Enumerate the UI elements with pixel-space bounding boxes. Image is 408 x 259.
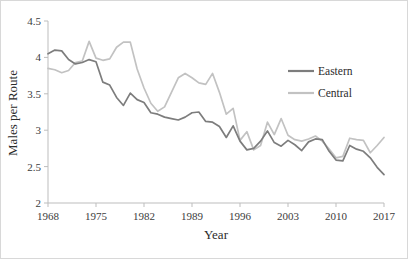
x-axis-title: Year — [204, 227, 229, 242]
chart-legend: EasternCentral — [288, 65, 353, 99]
x-tick-marks — [48, 203, 384, 207]
y-tick-label: 4 — [36, 51, 42, 63]
y-axis-title: Males per Route — [5, 70, 20, 156]
line-chart: 4.543.532.52 196819751982198919962003201… — [1, 1, 408, 259]
plot-area — [44, 21, 384, 207]
y-tick-label: 2.5 — [27, 161, 41, 173]
legend-label-central: Central — [318, 87, 352, 99]
y-tick-label: 3 — [36, 124, 42, 136]
legend-label-eastern: Eastern — [318, 65, 353, 77]
x-tick-label: 1989 — [181, 210, 204, 222]
series-line-central — [48, 41, 384, 157]
x-tick-label: 2003 — [277, 210, 300, 222]
y-tick-label: 4.5 — [27, 15, 41, 27]
y-tick-marks — [44, 21, 48, 203]
x-axis-tick-labels: 19681975198219891996200320102017 — [37, 210, 396, 222]
x-tick-label: 1968 — [37, 210, 60, 222]
x-tick-label: 1982 — [133, 210, 155, 222]
data-series-group — [48, 41, 384, 174]
x-tick-label: 1975 — [85, 210, 108, 222]
x-tick-label: 2017 — [373, 210, 396, 222]
x-tick-label: 1996 — [229, 210, 252, 222]
chart-figure: 4.543.532.52 196819751982198919962003201… — [0, 0, 408, 259]
y-axis-tick-labels: 4.543.532.52 — [27, 15, 41, 209]
x-tick-label: 2010 — [325, 210, 348, 222]
y-tick-label: 3.5 — [27, 88, 41, 100]
y-tick-label: 2 — [36, 197, 42, 209]
